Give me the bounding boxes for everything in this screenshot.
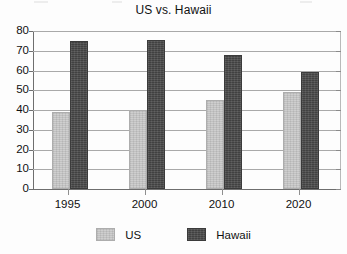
bar-hawaii-1995 xyxy=(70,41,88,189)
chart-legend: US Hawaii xyxy=(0,228,347,241)
y-axis-labels: 01020304050607080 xyxy=(0,31,29,189)
x-tick-mark xyxy=(145,189,146,195)
y-tick-label: 60 xyxy=(3,65,29,77)
gridline xyxy=(33,31,341,32)
y-tick-label: 10 xyxy=(3,163,29,175)
legend-label-us: US xyxy=(125,229,141,241)
y-tick-mark xyxy=(29,169,33,170)
x-tick-label-2020: 2020 xyxy=(274,198,324,210)
y-tick-label: 80 xyxy=(3,25,29,37)
y-tick-mark xyxy=(29,90,33,91)
x-tick-mark xyxy=(299,189,300,195)
y-tick-mark xyxy=(29,31,33,32)
y-tick-mark-right xyxy=(336,110,341,111)
y-tick-mark-right xyxy=(336,90,341,91)
y-tick-mark xyxy=(29,130,33,131)
chart-title: US vs. Hawaii xyxy=(0,3,347,17)
legend-swatch-us-icon xyxy=(96,228,115,241)
y-tick-label: 40 xyxy=(3,104,29,116)
x-tick-label-1995: 1995 xyxy=(43,198,93,210)
bar-hawaii-2000 xyxy=(147,40,165,189)
legend-item-hawaii: Hawaii xyxy=(187,228,251,241)
y-tick-mark-right xyxy=(336,130,341,131)
bar-us-2010 xyxy=(206,100,224,189)
y-tick-mark-right xyxy=(336,189,341,190)
legend-item-us: US xyxy=(96,228,141,241)
bar-chart: US vs. Hawaii 01020304050607080 19952000… xyxy=(0,0,347,254)
bar-hawaii-2010 xyxy=(224,55,242,189)
y-tick-mark-right xyxy=(336,71,341,72)
y-tick-label: 50 xyxy=(3,84,29,96)
y-tick-mark xyxy=(29,110,33,111)
bar-hawaii-2020 xyxy=(301,72,319,189)
legend-swatch-hawaii-icon xyxy=(187,228,206,241)
plot-area xyxy=(33,31,341,189)
bar-us-1995 xyxy=(52,112,70,189)
y-tick-mark xyxy=(29,189,33,190)
y-tick-mark-right xyxy=(336,51,341,52)
y-tick-label: 30 xyxy=(3,124,29,136)
x-tick-mark xyxy=(222,189,223,195)
y-tick-mark-right xyxy=(336,31,341,32)
x-tick-label-2010: 2010 xyxy=(197,198,247,210)
legend-label-hawaii: Hawaii xyxy=(216,229,251,241)
y-tick-mark xyxy=(29,71,33,72)
x-axis-line xyxy=(33,189,341,190)
y-tick-label: 70 xyxy=(3,45,29,57)
x-tick-label-2000: 2000 xyxy=(120,198,170,210)
y-tick-label: 0 xyxy=(3,183,29,195)
y-tick-mark-right xyxy=(336,169,341,170)
y-tick-mark xyxy=(29,150,33,151)
y-tick-mark xyxy=(29,51,33,52)
y-tick-label: 20 xyxy=(3,144,29,156)
y-tick-mark-right xyxy=(336,150,341,151)
x-tick-mark xyxy=(68,189,69,195)
bar-us-2000 xyxy=(129,110,147,189)
bar-us-2020 xyxy=(283,92,301,189)
